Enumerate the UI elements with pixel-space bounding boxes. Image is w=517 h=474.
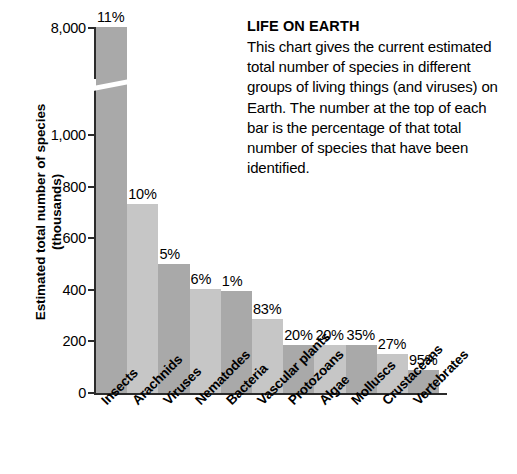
bar-percentage-label: 11%: [97, 10, 124, 25]
bar-percentage-label: 5%: [159, 247, 180, 262]
y-tick-400: 400: [24, 283, 86, 297]
bar-percentage-label: 10%: [128, 187, 156, 202]
bar: [127, 204, 158, 393]
y-tick-label: 1,000: [24, 128, 86, 142]
caption-body: This chart gives the current estimated t…: [247, 37, 509, 178]
bar-percentage-label: 35%: [347, 328, 375, 343]
bar-percentage-label: 27%: [378, 337, 406, 352]
y-tick-200: 200: [24, 334, 86, 348]
bar-percentage-label: 83%: [253, 302, 281, 317]
y-tick-label: 400: [24, 283, 86, 297]
caption-title: LIFE ON EARTH: [247, 17, 509, 36]
y-tick-label: 200: [24, 334, 86, 348]
caption-block: LIFE ON EARTH This chart gives the curre…: [247, 17, 509, 178]
bar-percentage-label: 1%: [222, 274, 243, 289]
y-tick-label: 8,000: [24, 21, 86, 35]
y-axis-title-line-1: Estimated total number of species: [33, 62, 49, 362]
y-tick-1000: 1,000: [24, 128, 86, 142]
y-tick-label: 600: [24, 231, 86, 245]
y-tick-800: 800: [24, 180, 86, 194]
y-tick-0: 0: [24, 386, 86, 400]
bar-percentage-label: 20%: [284, 328, 312, 343]
y-axis-title-line-2: (thousands): [49, 62, 65, 362]
y-tick-label: 800: [24, 180, 86, 194]
bar-percentage-label: 6%: [191, 272, 212, 287]
bar: [96, 27, 127, 393]
y-axis-title: Estimated total number of species (thous…: [33, 62, 65, 362]
y-tick-600: 600: [24, 231, 86, 245]
y-tick-label: 0: [24, 386, 86, 400]
y-tick-8000: 8,000: [24, 21, 86, 35]
